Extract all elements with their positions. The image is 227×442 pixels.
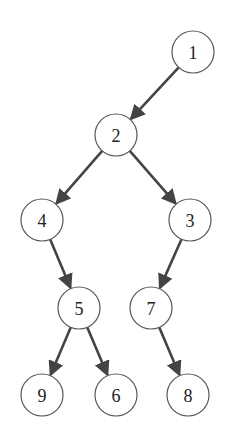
tree-node-7: 7 <box>130 287 172 329</box>
tree-node-1: 1 <box>172 31 214 73</box>
node-label: 9 <box>38 386 47 406</box>
tree-node-4: 4 <box>21 199 63 241</box>
node-label: 5 <box>75 299 84 319</box>
node-label: 3 <box>186 211 195 231</box>
node-label: 7 <box>147 299 156 319</box>
edge-arrow-5-to-6 <box>87 327 107 374</box>
edge-arrow-5-to-9 <box>51 327 71 374</box>
edge-arrow-7-to-8 <box>159 327 179 374</box>
edge-arrow-2-to-4 <box>56 151 102 204</box>
nodes-layer: 124357968 <box>21 31 214 416</box>
node-label: 8 <box>184 386 193 406</box>
tree-node-8: 8 <box>167 374 209 416</box>
tree-node-5: 5 <box>58 287 100 329</box>
node-label: 2 <box>112 126 121 146</box>
node-label: 1 <box>189 43 198 63</box>
node-label: 4 <box>38 211 47 231</box>
edge-arrow-3-to-7 <box>160 239 182 288</box>
tree-node-6: 6 <box>95 374 137 416</box>
tree-node-3: 3 <box>169 199 211 241</box>
tree-node-2: 2 <box>95 114 137 156</box>
node-label: 6 <box>112 386 121 406</box>
tree-node-9: 9 <box>21 374 63 416</box>
edge-arrow-4-to-5 <box>50 239 70 287</box>
edge-arrow-2-to-3 <box>130 151 176 204</box>
edge-arrow-1-to-2 <box>131 67 179 118</box>
binary-tree-diagram: 124357968 <box>0 0 227 442</box>
